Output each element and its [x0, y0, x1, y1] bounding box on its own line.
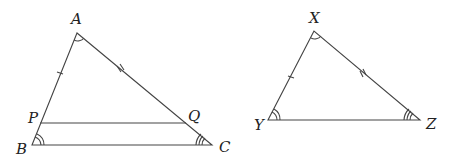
label-p: P — [28, 111, 38, 126]
angle-c-arc-1 — [202, 138, 205, 145]
angle-b-arc-1 — [35, 137, 41, 145]
label-c: C — [219, 140, 230, 155]
label-q: Q — [188, 109, 200, 124]
geometry-diagram: A B C P Q X Y Z — [0, 0, 452, 168]
label-b: B — [16, 142, 27, 157]
tick-ap — [57, 72, 63, 74]
label-a: A — [71, 12, 82, 27]
angle-a-arc — [74, 38, 84, 41]
triangle-xyz — [268, 31, 420, 120]
triangle-abc — [32, 33, 212, 145]
angle-z-arc-1 — [410, 113, 413, 120]
angle-y-arc-1 — [272, 112, 277, 120]
label-x: X — [309, 11, 320, 26]
angle-x-arc — [311, 36, 321, 39]
label-y: Y — [254, 118, 264, 133]
label-z: Z — [426, 117, 436, 132]
